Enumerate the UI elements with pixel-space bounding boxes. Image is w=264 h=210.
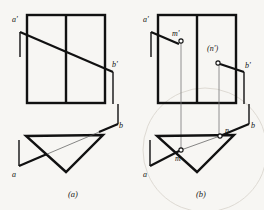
point-m-prime xyxy=(179,39,183,43)
line-m-n-top-hidden xyxy=(181,136,220,150)
label-a-panel-a: a xyxy=(12,170,16,179)
panel-b-top-view xyxy=(157,135,234,172)
line-a-b-top-visible-right xyxy=(99,124,118,132)
panel-a-front-view xyxy=(27,15,105,103)
plate-top-triangle xyxy=(26,135,103,172)
label-b-panel-b: b xyxy=(251,121,255,130)
point-m xyxy=(179,148,183,152)
label-a-prime-panel-b: a' xyxy=(143,15,149,24)
technical-drawing-svg: a' b' b a (a) xyxy=(0,0,264,210)
label-b-prime-panel-a: b' xyxy=(112,60,118,69)
panel-b-projectors xyxy=(181,41,219,150)
panel-b-front-view xyxy=(158,15,236,103)
label-b-prime-panel-b: b' xyxy=(245,61,251,70)
caption-panel-b: (b) xyxy=(196,189,206,199)
caption-panel-a: (a) xyxy=(68,189,78,199)
label-n-panel-b: n xyxy=(225,126,229,135)
label-m-prime-panel-b: m' xyxy=(172,29,180,38)
label-a-panel-b: a xyxy=(143,170,147,179)
line-n-prime-b-prime xyxy=(220,64,244,72)
label-n-prime-panel-b: (n') xyxy=(207,44,218,53)
panel-a-group: a' b' b a (a) xyxy=(12,15,123,199)
plate-top-triangle xyxy=(157,135,234,172)
figure-container: a' b' b a (a) xyxy=(0,0,264,210)
point-n-prime xyxy=(216,61,220,65)
label-a-prime-panel-a: a' xyxy=(12,15,18,24)
point-n xyxy=(218,134,222,138)
line-a-b-top-visible-left xyxy=(19,154,47,166)
label-b-panel-a: b xyxy=(119,121,123,130)
label-m-panel-b: m xyxy=(175,154,181,163)
panel-a-top-view xyxy=(26,135,103,172)
